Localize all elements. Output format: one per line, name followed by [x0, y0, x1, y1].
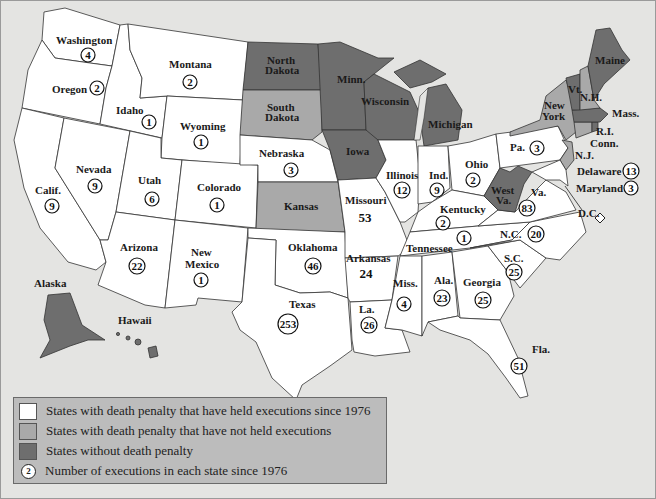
badge-colorado: 1 — [210, 198, 224, 212]
label-delaware: Delaware — [577, 165, 622, 177]
label-dc: D.C. — [578, 207, 600, 219]
label-alaska: Alaska — [34, 277, 67, 289]
label-illinois: Illinois — [386, 169, 419, 181]
label-arkansas: Arkansas — [346, 252, 391, 264]
label-maryland: Maryland — [576, 182, 623, 194]
state-alaska[interactable] — [40, 293, 105, 358]
state-connecticut[interactable] — [574, 122, 592, 138]
legend-item-execution-count: 2 Number of executions in each state sin… — [19, 463, 287, 479]
badge-idaho: 1 — [142, 115, 156, 129]
badge-washington: 4 — [81, 48, 95, 62]
legend-label: States with death penalty that have held… — [46, 403, 371, 419]
label-alabama: Ala. — [434, 274, 454, 286]
badge-virginia: 83 — [519, 200, 535, 216]
label-utah: Utah — [138, 174, 161, 186]
svg-text:2: 2 — [187, 76, 193, 88]
label-north-dakota-2: Dakota — [265, 64, 300, 76]
svg-text:83: 83 — [522, 202, 534, 214]
badge-illinois: 12 — [394, 182, 410, 198]
svg-text:25: 25 — [509, 266, 521, 278]
svg-text:13: 13 — [626, 165, 638, 177]
label-new-hampshire: N.H. — [580, 91, 602, 103]
label-colorado: Colorado — [197, 181, 242, 193]
count-missouri: 53 — [359, 210, 373, 225]
label-idaho: Idaho — [116, 104, 144, 116]
label-wisconsin: Wisconsin — [361, 95, 409, 107]
label-california: Calif. — [35, 184, 61, 196]
legend-label: Number of executions in each state since… — [45, 463, 287, 479]
state-michigan-up[interactable] — [394, 60, 446, 88]
badge-oregon: 2 — [90, 81, 104, 95]
label-washington: Washington — [56, 34, 112, 46]
svg-text:1: 1 — [198, 274, 204, 286]
svg-text:6: 6 — [149, 193, 155, 205]
badge-florida: 51 — [511, 358, 527, 374]
svg-text:1: 1 — [198, 136, 204, 148]
label-south-carolina: S.C. — [504, 252, 524, 264]
badge-south-carolina: 25 — [506, 264, 522, 280]
badge-louisiana: 26 — [361, 317, 377, 333]
label-nevada: Nevada — [76, 163, 112, 175]
label-nebraska: Nebraska — [259, 147, 305, 159]
legend-item-executed: States with death penalty that have held… — [19, 403, 371, 419]
state-hawaii-big-island[interactable] — [148, 346, 158, 358]
label-tennessee: Tennessee — [406, 242, 453, 254]
state-hawaii-island[interactable] — [116, 332, 119, 335]
swatch-dark-gray — [19, 443, 37, 460]
state-florida[interactable] — [428, 316, 528, 398]
label-michigan: Michigan — [428, 118, 473, 130]
svg-text:253: 253 — [280, 318, 297, 330]
badge-utah: 6 — [145, 192, 159, 206]
legend-label: States with death penalty that have not … — [46, 423, 331, 439]
badge-wyoming: 1 — [194, 135, 208, 149]
badge-mississippi: 4 — [397, 297, 411, 311]
legend-item-no-executions: States with death penalty that have not … — [19, 423, 331, 439]
badge-nebraska: 3 — [284, 163, 298, 177]
badge-georgia: 25 — [475, 292, 491, 308]
svg-text:1: 1 — [146, 116, 152, 128]
svg-text:9: 9 — [434, 184, 440, 196]
state-hawaii-island[interactable] — [126, 336, 130, 340]
svg-text:9: 9 — [49, 200, 55, 212]
label-maine: Maine — [595, 54, 625, 66]
badge-north-carolina: 20 — [528, 226, 544, 242]
svg-text:46: 46 — [308, 260, 320, 272]
svg-text:25: 25 — [478, 294, 490, 306]
svg-text:3: 3 — [534, 142, 540, 154]
label-mississippi: Miss. — [393, 277, 418, 289]
svg-text:9: 9 — [92, 180, 98, 192]
label-louisiana: La. — [359, 303, 375, 315]
label-kansas: Kansas — [284, 200, 319, 212]
label-rhode-island: R.I. — [596, 125, 614, 137]
label-pennsylvania: Pa. — [510, 141, 525, 153]
svg-text:51: 51 — [514, 360, 525, 372]
label-florida: Fla. — [532, 343, 550, 355]
label-missouri: Missouri — [345, 194, 387, 206]
count-circle-icon: 2 — [21, 464, 36, 479]
svg-text:26: 26 — [364, 319, 376, 331]
badge-montana: 2 — [183, 75, 197, 89]
count-arkansas: 24 — [360, 266, 374, 281]
badge-indiana: 9 — [430, 183, 444, 197]
svg-text:20: 20 — [531, 228, 543, 240]
state-hawaii-island[interactable] — [135, 339, 141, 345]
label-ohio: Ohio — [465, 158, 489, 170]
badge-texas: 253 — [278, 314, 298, 334]
badge-new-mexico: 1 — [194, 273, 208, 287]
state-colorado[interactable] — [175, 160, 258, 228]
badge-pennsylvania: 3 — [530, 141, 544, 155]
label-new-mexico-2: Mexico — [185, 258, 220, 270]
label-montana: Montana — [169, 58, 212, 70]
badge-tennessee: 1 — [457, 231, 471, 245]
badge-delaware: 13 — [623, 163, 639, 179]
label-new-jersey: N.J. — [575, 149, 594, 161]
label-connecticut: Conn. — [590, 137, 619, 149]
badge-california: 9 — [45, 199, 59, 213]
swatch-light-gray — [19, 423, 37, 440]
label-indiana: Ind. — [429, 169, 449, 181]
label-minnesota: Minn. — [337, 73, 366, 85]
svg-text:1: 1 — [461, 232, 467, 244]
badge-alabama: 23 — [434, 290, 450, 306]
label-oklahoma: Oklahoma — [288, 241, 338, 253]
svg-text:12: 12 — [397, 184, 409, 196]
